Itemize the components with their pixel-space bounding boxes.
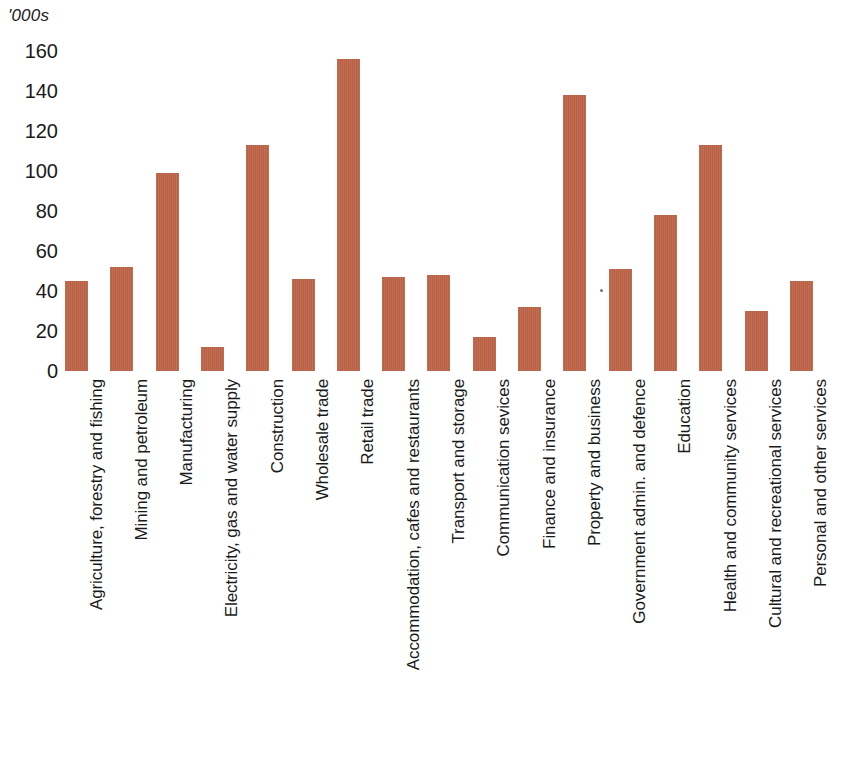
x-axis-category-label: Transport and storage [447,379,470,709]
bar-chart: '000s 160140120100806040200 Agriculture,… [0,0,852,762]
x-axis-category-label: Construction [266,379,289,709]
bar [156,173,179,371]
bar [427,275,450,371]
x-axis-category-label: Retail trade [356,379,379,709]
y-tick-label: 80 [0,201,58,221]
bar [518,307,541,371]
x-axis-category-labels: Agriculture, forestry and fishingMining … [64,379,852,709]
bar [65,281,88,371]
bar [790,281,813,371]
y-axis-tick-labels: 160140120100806040200 [0,0,58,762]
bar [201,347,224,371]
x-axis-category-label: Finance and insurance [538,379,561,709]
y-tick-label: 40 [0,281,58,301]
x-axis-category-label: Manufacturing [175,379,198,709]
x-axis-category-label: Wholesale trade [311,379,334,709]
x-axis-category-label: Education [673,379,696,709]
bar [563,95,586,371]
bars-layer [64,51,852,371]
y-tick-label: 0 [0,361,58,381]
bar [110,267,133,371]
y-tick-label: 120 [0,121,58,141]
bar [745,311,768,371]
y-tick-label: 140 [0,81,58,101]
x-axis-category-label: Property and business [583,379,606,709]
x-axis-category-label: Communication sevices [492,379,515,709]
x-axis-category-label: Electricity, gas and water supply [220,379,243,709]
y-tick-label: 60 [0,241,58,261]
x-axis-category-label: Personal and other services [809,379,832,709]
y-tick-label: 20 [0,321,58,341]
bar [382,277,405,371]
plot-area [64,51,852,371]
bar [473,337,496,371]
bar [699,145,722,371]
x-axis-category-label: Accommodation, cafes and restaurants [402,379,425,709]
y-tick-label: 100 [0,161,58,181]
x-axis-category-label: Cultural and recreational services [764,379,787,709]
bar [292,279,315,371]
print-speck-artifact [600,289,603,292]
y-tick-label: 160 [0,41,58,61]
bar [246,145,269,371]
x-axis-category-label: Health and community services [719,379,742,709]
x-axis-category-label: Government admin. and defence [628,379,651,709]
bar [609,269,632,371]
bar [337,59,360,371]
x-axis-category-label: Agriculture, forestry and fishing [85,379,108,709]
bar [654,215,677,371]
x-axis-category-label: Mining and petroleum [130,379,153,709]
